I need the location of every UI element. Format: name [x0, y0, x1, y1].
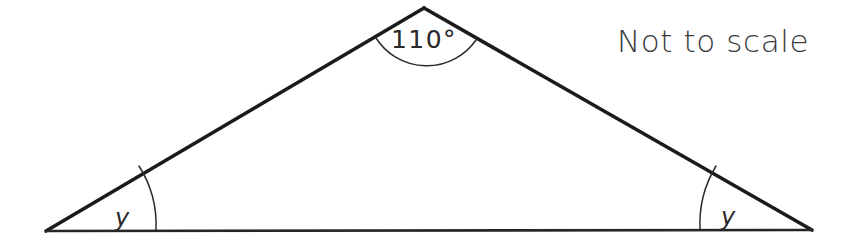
- triangle-side-left: [46, 8, 424, 231]
- triangle-side-base: [46, 230, 812, 231]
- triangle-diagram-canvas: 110° y y Not to scale: [0, 0, 846, 248]
- geometry-figure: 110° y y Not to scale: [0, 0, 846, 248]
- not-to-scale-note: Not to scale: [617, 23, 809, 59]
- angle-label-base-left: y: [114, 204, 130, 232]
- angle-label-base-right: y: [720, 203, 736, 231]
- angle-label-apex: 110°: [391, 25, 457, 54]
